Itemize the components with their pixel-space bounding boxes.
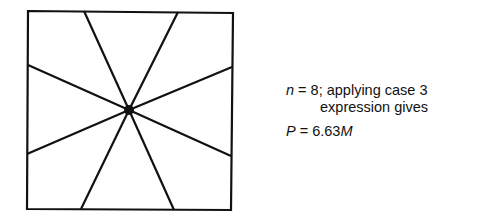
- annotation-line-1: n = 8; applying case 3: [286, 83, 428, 98]
- variable-p: P: [286, 123, 296, 139]
- annotation-line-2: expression gives: [320, 100, 428, 115]
- radial-line-5: [129, 110, 174, 210]
- radial-line-3: [129, 67, 232, 110]
- center-point: [124, 105, 134, 115]
- annotation-line-1-text: = 8; applying case 3: [294, 82, 427, 98]
- radial-line-8: [28, 65, 129, 110]
- result-value: = 6.63: [296, 123, 341, 139]
- variable-m: M: [340, 123, 352, 139]
- radial-line-4: [129, 110, 231, 156]
- radial-line-6: [81, 110, 129, 209]
- variable-n: n: [286, 82, 294, 98]
- radial-line-2: [129, 12, 178, 110]
- yield-line-diagram: [0, 0, 260, 217]
- result-equation: P = 6.63M: [286, 124, 353, 139]
- radial-line-7: [27, 110, 129, 154]
- radial-line-1: [84, 11, 129, 110]
